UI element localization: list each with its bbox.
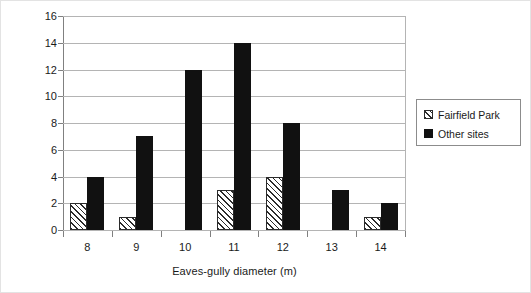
bar-other-sites	[234, 43, 251, 230]
plot-right-border	[405, 16, 406, 231]
legend-item-label: Fairfield Park	[438, 109, 500, 121]
bar-fairfield-park	[119, 217, 136, 230]
x-axis-tick-mark	[112, 231, 113, 237]
bar-group	[266, 16, 300, 230]
x-axis-tick-mark	[258, 231, 259, 237]
y-axis-tick-mark	[58, 203, 63, 204]
bar-fairfield-park	[266, 177, 283, 231]
bar-fairfield-park	[364, 217, 381, 230]
legend-item-fairfield-park: Fairfield Park	[424, 106, 520, 123]
x-axis-tick-label: 12	[263, 241, 303, 253]
x-axis-tick-mark	[405, 231, 406, 237]
bar-other-sites	[283, 123, 300, 230]
x-axis-tick-label: 11	[214, 241, 254, 253]
legend-item-label: Other sites	[438, 128, 489, 140]
bar-other-sites	[381, 203, 398, 230]
bar-other-sites	[136, 136, 153, 230]
bar-chart-figure: No. of houses 0246810121416 Eaves-gully …	[0, 0, 531, 293]
y-axis-tick-label: 4	[35, 172, 57, 183]
y-axis-tick-label: 12	[35, 65, 57, 76]
bar-other-sites	[185, 70, 202, 231]
plot-area	[63, 16, 405, 230]
y-axis-tick-mark	[58, 43, 63, 44]
y-axis-tick-labels: 0246810121416	[33, 1, 57, 293]
x-axis-title: Eaves-gully diameter (m)	[63, 265, 406, 277]
y-axis-tick-mark	[58, 70, 63, 71]
y-axis-tick-label: 14	[35, 38, 57, 49]
y-axis-tick-label: 6	[35, 145, 57, 156]
y-axis-tick-mark	[58, 16, 63, 17]
legend-item-other-sites: Other sites	[424, 125, 520, 142]
x-axis-tick-label: 9	[116, 241, 156, 253]
x-axis-tick-mark	[210, 231, 211, 237]
bar-other-sites	[332, 190, 349, 230]
x-axis-tick-label: 10	[165, 241, 205, 253]
bar-fairfield-park	[70, 203, 87, 230]
bar-group	[168, 16, 202, 230]
y-axis-tick-label: 2	[35, 198, 57, 209]
y-axis-tick-label: 16	[35, 11, 57, 22]
y-axis-tick-label: 10	[35, 91, 57, 102]
bar-group	[119, 16, 153, 230]
bar-group	[217, 16, 251, 230]
x-axis-tick-label: 8	[67, 241, 107, 253]
y-axis-tick-mark	[58, 150, 63, 151]
filled-square-icon	[424, 129, 433, 138]
hatched-square-icon	[424, 110, 433, 119]
x-axis-tick-mark	[307, 231, 308, 237]
y-axis-tick-label: 0	[35, 225, 57, 236]
x-axis-tick-label: 13	[312, 241, 352, 253]
x-axis-tick-label: 14	[361, 241, 401, 253]
bar-other-sites	[87, 177, 104, 231]
bar-group	[70, 16, 104, 230]
bar-group	[315, 16, 349, 230]
x-axis-tick-mark	[356, 231, 357, 237]
y-axis-tick-mark	[58, 123, 63, 124]
y-axis-tick-mark	[58, 177, 63, 178]
x-axis-tick-mark	[63, 231, 64, 237]
chart-legend: Fairfield Park Other sites	[416, 99, 521, 146]
x-axis-tick-mark	[161, 231, 162, 237]
bar-group	[364, 16, 398, 230]
bar-fairfield-park	[217, 190, 234, 230]
grid-line	[63, 230, 405, 231]
y-axis-tick-label: 8	[35, 118, 57, 129]
y-axis-tick-mark	[58, 96, 63, 97]
